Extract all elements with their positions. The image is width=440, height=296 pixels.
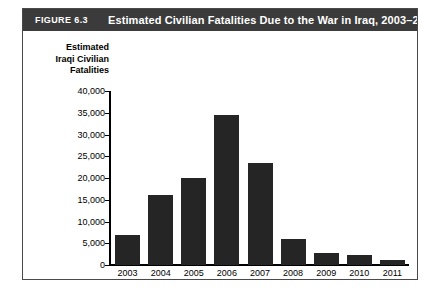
y-axis-tick-mark <box>105 243 110 244</box>
bars-area <box>111 91 409 265</box>
y-axis-tick-label: 20,000 <box>53 173 105 183</box>
y-axis-tick-label: 0 <box>53 260 105 270</box>
bar-2006 <box>214 115 239 265</box>
y-axis-title-line-2: Iraqi Civilian <box>25 54 109 66</box>
y-axis-title: Estimated Iraqi Civilian Fatalities <box>25 42 109 77</box>
x-axis-tick-label: 2008 <box>277 268 310 278</box>
x-axis-tick-label: 2011 <box>376 268 409 278</box>
x-axis-tick-label: 2010 <box>343 268 376 278</box>
figure-number-label: FIGURE 6.3 <box>35 15 88 25</box>
x-axis-tick-label: 2009 <box>310 268 343 278</box>
x-axis-tick-label: 2003 <box>111 268 144 278</box>
y-axis-tick-mark <box>105 135 110 136</box>
bar-2008 <box>281 239 306 265</box>
y-axis-tick-label: 35,000 <box>53 108 105 118</box>
x-axis-tick-label: 2006 <box>210 268 243 278</box>
y-axis-tick-mark <box>105 178 110 179</box>
y-axis-tick-mark <box>105 265 110 266</box>
bar-2011 <box>380 260 405 265</box>
bar-2005 <box>181 178 206 265</box>
bar-2010 <box>347 255 372 265</box>
figure-header-bar: FIGURE 6.3 Estimated Civilian Fatalities… <box>23 9 417 31</box>
y-axis-tick-mark <box>105 200 110 201</box>
bar-2003 <box>115 235 140 265</box>
figure-container: FIGURE 6.3 Estimated Civilian Fatalities… <box>22 8 418 280</box>
bar-2004 <box>148 195 173 265</box>
chart-plot-region: Estimated Iraqi Civilian Fatalities 05,0… <box>23 31 417 279</box>
y-axis-tick-label: 30,000 <box>53 130 105 140</box>
y-axis-tick-mark <box>105 91 110 92</box>
y-axis-tick-label: 25,000 <box>53 151 105 161</box>
y-axis-tick-label: 10,000 <box>53 217 105 227</box>
y-axis-tick-mark <box>105 156 110 157</box>
y-axis-tick-label: 5,000 <box>53 238 105 248</box>
y-axis-title-line-1: Estimated <box>25 42 109 54</box>
y-axis-tick-label: 15,000 <box>53 195 105 205</box>
y-axis-tick-label: 40,000 <box>53 86 105 96</box>
x-axis-tick-label: 2007 <box>243 268 276 278</box>
x-axis-tick-label: 2004 <box>144 268 177 278</box>
bar-2007 <box>248 163 273 265</box>
y-axis-tick-mark <box>105 222 110 223</box>
y-axis-title-line-3: Fatalities <box>25 65 109 77</box>
y-axis-tick-mark <box>105 113 110 114</box>
x-axis-tick-label: 2005 <box>177 268 210 278</box>
figure-title: Estimated Civilian Fatalities Due to the… <box>108 14 418 26</box>
bar-2009 <box>314 253 339 265</box>
